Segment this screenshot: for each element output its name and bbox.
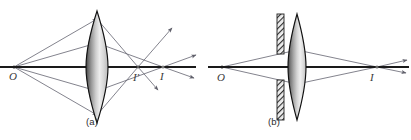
object-point-b — [221, 66, 224, 69]
image-label-i-b: I — [370, 71, 374, 83]
panel-caption-b: (b) — [268, 116, 280, 127]
object-label-o-a: O — [9, 70, 17, 82]
image-point-paraxial-a — [161, 65, 164, 68]
aperture-stop-upper-bar — [277, 14, 284, 54]
ray-paraxial-upper-refracted — [97, 43, 194, 78]
ray-lower-incident-b — [222, 67, 297, 84]
ray-paraxial-upper-incident — [14, 43, 97, 67]
image-point-marginal-a — [137, 66, 140, 69]
panel-a — [0, 11, 196, 123]
converging-lens-b — [288, 14, 306, 120]
aperture-stop-lower-bar — [277, 80, 284, 120]
image-label-i-a: I — [160, 70, 164, 82]
ray-upper-refracted-b — [297, 50, 406, 73]
object-label-o-b: O — [217, 71, 225, 83]
object-point-a — [13, 66, 16, 69]
ray-paraxial-lower-incident — [14, 67, 97, 91]
ray-upper-incident-b — [222, 50, 297, 67]
image-point-b — [375, 65, 378, 68]
panel-caption-a: (a) — [86, 116, 98, 127]
panel-b — [208, 14, 409, 120]
image-label-i-prime-a: I' — [133, 71, 139, 83]
ray-lower-refracted-b — [297, 60, 407, 84]
lens-ray-diagram-figure: O I' I O I (a) (b) — [0, 0, 411, 140]
ray-marginal-upper-incident — [14, 19, 97, 67]
ray-diagram-canvas — [0, 0, 411, 140]
ray-marginal-lower-incident — [14, 67, 97, 115]
